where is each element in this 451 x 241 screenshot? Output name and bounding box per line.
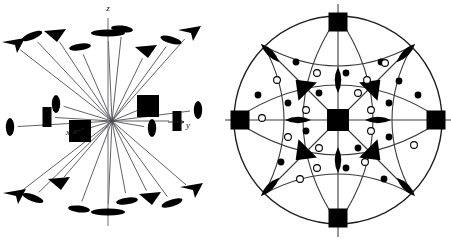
symbol-twofold-lens-ul — [21, 29, 44, 44]
stereographic-projection-svg — [225, 0, 451, 241]
general-point-filled-10 — [285, 100, 292, 107]
general-point-open-9 — [355, 90, 362, 97]
symbol-twofold-lens-far-l — [6, 118, 14, 136]
general-point-open-21 — [297, 176, 304, 183]
general-point-open-14 — [285, 134, 292, 141]
fourfold-center — [327, 109, 349, 131]
general-point-open-1 — [274, 77, 281, 84]
symbol-twofold-lens-lrr — [160, 196, 183, 209]
axis-line-twofold-lens-lr — [112, 121, 126, 193]
axis-label-z: z — [105, 3, 110, 13]
general-point-open-12 — [368, 107, 375, 114]
general-point-filled-0 — [293, 59, 300, 66]
general-point-filled-25 — [381, 176, 388, 183]
general-point-filled-28 — [415, 92, 422, 99]
general-point-filled-17 — [386, 134, 393, 141]
perspective-view-panel: zyx — [0, 0, 225, 241]
general-point-filled-26 — [255, 92, 262, 99]
symbol-twofold-lens-mid-r — [148, 119, 156, 137]
general-point-filled-7 — [396, 78, 403, 85]
symbol-twofold-lens-uc — [69, 42, 92, 52]
general-point-open-18 — [316, 145, 323, 152]
general-point-filled-23 — [343, 165, 350, 172]
general-point-open-5 — [382, 60, 389, 67]
symbol-twofold-lens-mid-l — [52, 95, 60, 113]
general-point-filled-20 — [278, 159, 285, 166]
axis-line-twofold-lens-ur — [112, 37, 121, 121]
general-point-filled-8 — [316, 90, 323, 97]
fourfold-west — [231, 111, 250, 130]
symbol-fourfold-down — [91, 208, 125, 215]
symbol-twofold-lens-urr — [159, 34, 182, 47]
symbol-threefold-ll — [48, 177, 70, 190]
axis-line-threefold-ul — [59, 42, 112, 121]
stereographic-projection-panel — [225, 0, 451, 241]
axis-line-fourfold-down — [108, 121, 112, 204]
axis-label-x: x — [65, 127, 70, 137]
symbol-fourfold-left — [69, 120, 91, 142]
fourfold-north — [329, 13, 348, 32]
general-point-open-29 — [411, 142, 418, 149]
symbol-threefold-ul — [44, 29, 66, 42]
general-point-open-2 — [314, 70, 321, 77]
fourfold-east — [427, 111, 446, 130]
axis-line-fourfold-up — [108, 41, 112, 121]
symbol-twofold-far-ll — [3, 189, 26, 204]
axis-line-twofold-far-ul — [20, 50, 112, 121]
symbol-fourfold-right — [137, 95, 159, 117]
crystallographic-symmetry-figure: zyx — [0, 0, 451, 241]
general-point-open-27 — [259, 115, 266, 122]
general-point-open-16 — [368, 128, 375, 135]
axis-labels-group: zyx — [65, 3, 190, 137]
axis-line-twofold-lens-lrr — [112, 121, 167, 197]
general-point-open-6 — [364, 77, 371, 84]
symbol-twofold-lens-far-r — [194, 101, 202, 119]
symbol-twofold-nw-square — [43, 107, 52, 127]
axis-label-y: y — [185, 120, 190, 130]
symbol-twofold-lens-lr — [116, 196, 139, 206]
general-point-open-11 — [303, 107, 310, 114]
perspective-view-svg: zyx — [0, 0, 225, 241]
axis-line-twofold-lens-mid-r — [112, 121, 144, 127]
axis-line-threefold-lr — [112, 121, 146, 191]
symbol-twofold-far-lr — [180, 183, 203, 198]
symbol-twofold-ne-square — [173, 111, 182, 131]
general-point-open-24 — [362, 159, 369, 166]
general-point-filled-13 — [386, 100, 393, 107]
symbol-twofold-far-ur — [178, 26, 201, 41]
symbol-threefold-lr — [139, 192, 161, 205]
symbol-threefold-ur — [135, 45, 157, 58]
general-point-open-22 — [314, 165, 321, 172]
general-point-filled-19 — [355, 145, 362, 152]
symbol-twofold-lens-ll — [22, 191, 45, 205]
symbol-twofold-lens-lc — [68, 204, 91, 213]
general-point-filled-3 — [343, 70, 350, 77]
general-point-filled-15 — [303, 128, 310, 135]
fourfold-south — [329, 209, 348, 228]
